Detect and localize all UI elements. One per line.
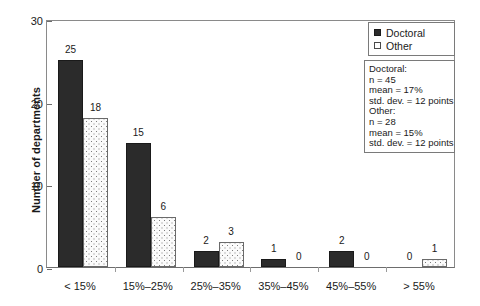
legend-label-other: Other xyxy=(386,40,412,52)
x-tick-mark-3 xyxy=(250,267,251,272)
bar-value-doctoral-4: 1 xyxy=(271,243,277,254)
bar-doctoral-3 xyxy=(194,251,219,268)
bar-value-other-6: 1 xyxy=(432,243,438,254)
bar-other-2 xyxy=(151,217,176,267)
bar-doctoral-5 xyxy=(329,251,354,268)
y-tick-label-30: 30 xyxy=(31,15,47,27)
x-axis-label-4: 35%–45% xyxy=(258,280,308,292)
legend-item-doctoral: Doctoral xyxy=(374,26,454,39)
bar-value-other-1: 18 xyxy=(90,102,101,113)
y-tick-0: 0 xyxy=(37,263,47,275)
legend-swatch-other-icon xyxy=(374,42,381,49)
y-axis-title: Number of departments xyxy=(30,50,42,250)
x-tick-mark-2 xyxy=(183,267,184,272)
stats-line-doctoral-header: Doctoral: xyxy=(369,64,454,75)
y-tick-20: 20 xyxy=(31,98,47,110)
y-tick-10: 10 xyxy=(31,180,47,192)
legend-label-doctoral: Doctoral xyxy=(386,27,425,39)
legend: Doctoral Other xyxy=(368,22,455,56)
bar-other-6 xyxy=(422,259,447,267)
y-tick-label-0: 0 xyxy=(37,263,47,275)
bar-value-doctoral-1: 25 xyxy=(65,44,76,55)
y-tick-mark-20 xyxy=(47,104,52,105)
x-axis-label-3: 25%–35% xyxy=(191,280,241,292)
y-tick-mark-30 xyxy=(47,21,52,22)
y-tick-30: 30 xyxy=(31,15,47,27)
y-tick-label-20: 20 xyxy=(31,98,47,110)
x-tick-mark-4 xyxy=(318,267,319,272)
bar-doctoral-1 xyxy=(58,60,83,267)
bar-value-doctoral-5: 2 xyxy=(339,235,345,246)
bar-chart-figure: Number of departments 0 10 20 30 25 18 xyxy=(0,0,480,306)
bar-value-other-5: 0 xyxy=(364,251,370,262)
bar-value-doctoral-3: 2 xyxy=(203,235,209,246)
stats-line-other-n: n = 28 xyxy=(369,117,454,128)
x-tick-mark-1 xyxy=(115,267,116,272)
bar-value-doctoral-6: 0 xyxy=(407,251,413,262)
bar-doctoral-2 xyxy=(126,143,151,267)
x-axis-label-1: < 15% xyxy=(64,280,96,292)
stats-annotation-box: Doctoral: n = 45 mean = 17% std. dev. = … xyxy=(364,60,455,153)
legend-swatch-doctoral-icon xyxy=(374,29,381,36)
bar-other-1 xyxy=(83,118,108,267)
x-axis-label-2: 15%–25% xyxy=(123,280,173,292)
legend-item-other: Other xyxy=(374,39,454,52)
y-tick-mark-10 xyxy=(47,186,52,187)
y-tick-label-10: 10 xyxy=(31,180,47,192)
bar-value-other-4: 0 xyxy=(296,251,302,262)
x-tick-mark-5 xyxy=(386,267,387,272)
bar-value-other-2: 6 xyxy=(161,201,167,212)
stats-line-other-stddev: std. dev. = 12 points xyxy=(369,138,454,149)
x-axis-label-5: 45%–55% xyxy=(326,280,376,292)
x-axis-label-6: > 55% xyxy=(403,280,435,292)
bar-value-doctoral-2: 15 xyxy=(133,127,144,138)
bar-other-3 xyxy=(219,242,244,267)
y-tick-mark-0 xyxy=(47,269,52,270)
bar-value-other-3: 3 xyxy=(228,226,234,237)
bar-doctoral-4 xyxy=(261,259,286,267)
